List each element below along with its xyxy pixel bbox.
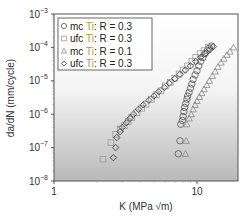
y-tick-label: 10−4 (29, 40, 48, 53)
y-tick-label: 10−8 (29, 174, 48, 187)
fatigue-crack-growth-chart: 10−310−410−510−610−710−8 110 mc Ti: R = … (0, 0, 252, 219)
y-axis: 10−310−410−510−610−710−8 (29, 7, 54, 187)
legend-entry: mc Ti: R = 0.3 (70, 21, 132, 32)
x-axis: 110 (51, 181, 203, 197)
legend: mc Ti: R = 0.3ufc Ti: R = 0.3mc Ti: R = … (58, 18, 152, 70)
x-tick-label: 1 (51, 186, 57, 197)
x-axis-label: K (MPa √m) (119, 201, 172, 212)
legend-entry: ufc Ti: R = 0.3 (70, 58, 132, 69)
y-tick-label: 10−5 (29, 73, 48, 86)
y-axis-label: da/dN (mm/cycle) (5, 59, 16, 137)
legend-entry: mc Ti: R = 0.1 (70, 46, 132, 57)
x-tick-label: 10 (191, 186, 203, 197)
y-tick-label: 10−6 (29, 107, 48, 120)
legend-entry: ufc Ti: R = 0.3 (70, 33, 132, 44)
y-tick-label: 10−7 (29, 140, 48, 153)
y-tick-label: 10−3 (29, 7, 48, 20)
